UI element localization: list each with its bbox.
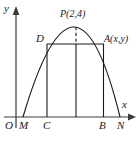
x-axis-label: x: [122, 99, 127, 110]
vertex-label: P(2,4): [60, 9, 85, 19]
point-d-label: D: [36, 33, 44, 44]
y-axis: [13, 6, 20, 128]
y-axis-arrow: [13, 6, 20, 15]
point-b-label: B: [99, 120, 106, 131]
y-axis-label: y: [4, 3, 9, 14]
x-axis-arrow: [128, 114, 136, 121]
point-c-label: C: [43, 120, 50, 131]
point-n-label: N: [117, 120, 124, 131]
point-m-label: M: [19, 120, 28, 131]
origin-label: O: [5, 120, 13, 131]
point-a-label: A(x,y): [104, 34, 128, 44]
parabola-figure: y x O M C B N D P(2,4) A(x,y): [0, 0, 138, 143]
